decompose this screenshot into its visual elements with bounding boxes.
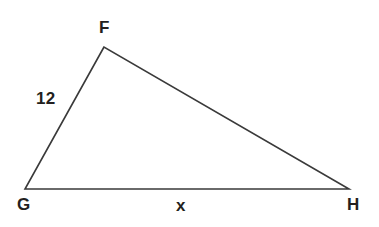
- triangle-figure: [0, 0, 379, 227]
- vertex-label-g: G: [17, 196, 30, 213]
- vertex-label-h: H: [347, 196, 359, 213]
- side-length-label-fg: 12: [36, 90, 55, 107]
- triangle-outline: [25, 47, 349, 189]
- geometry-diagram: F G H 12 x: [0, 0, 379, 227]
- side-length-label-gh: x: [176, 197, 186, 214]
- vertex-label-f: F: [99, 19, 110, 36]
